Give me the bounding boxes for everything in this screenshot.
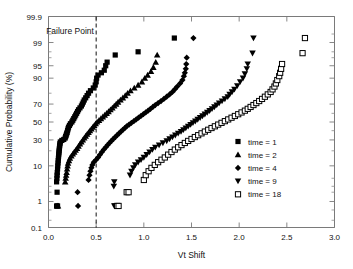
chart-figure: 0.111030507090959999.9 0.00.51.01.52.02.… — [0, 0, 353, 269]
marker-filled-square — [54, 190, 59, 195]
y-tick-label: 1 — [38, 197, 43, 206]
y-tick-label: 50 — [33, 118, 42, 127]
legend-label-2: time = 4 — [248, 164, 277, 173]
marker-filled-square — [136, 49, 141, 54]
marker-filled-square — [172, 35, 177, 40]
legend-label-0: time = 1 — [248, 138, 277, 147]
y-tick-label: 30 — [33, 136, 42, 145]
x-tick-label: 2.5 — [281, 233, 293, 242]
y-axis-title: Cumulative Probability (%) — [4, 72, 14, 172]
legend-label-4: time = 18 — [248, 190, 282, 199]
x-tick-label: 0.0 — [43, 233, 55, 242]
legend-label-3: time = 9 — [248, 177, 277, 186]
x-tick-label: 1.0 — [138, 233, 150, 242]
marker-filled-square — [235, 139, 240, 144]
x-axis-title: Vt Shift — [178, 250, 206, 260]
x-tick-label: 1.5 — [186, 233, 198, 242]
marker-filled-square — [105, 60, 110, 65]
marker-open-square — [126, 190, 131, 195]
cumulative-probability-scatter-plot: 0.111030507090959999.9 0.00.51.01.52.02.… — [0, 0, 353, 269]
marker-filled-square — [113, 52, 118, 57]
marker-open-square — [116, 203, 121, 208]
y-tick-label: 90 — [33, 74, 42, 83]
y-tick-label: 10 — [33, 162, 42, 171]
marker-open-square — [302, 35, 307, 40]
x-tick-label: 2.0 — [234, 233, 246, 242]
marker-open-square — [235, 192, 240, 197]
y-tick-label: 99 — [33, 39, 42, 48]
y-tick-label: 0.1 — [31, 224, 43, 233]
marker-open-square — [279, 61, 284, 66]
failure-point-label: Failure Point — [46, 26, 94, 36]
legend-label-1: time = 2 — [248, 151, 277, 160]
x-tick-label: 0.5 — [91, 233, 103, 242]
y-tick-label: 99.9 — [26, 13, 42, 22]
marker-filled-square — [102, 68, 107, 73]
y-tick-label: 95 — [33, 62, 42, 71]
x-tick-label: 3.0 — [329, 233, 341, 242]
y-tick-label: 70 — [33, 100, 42, 109]
marker-open-square — [300, 51, 305, 56]
